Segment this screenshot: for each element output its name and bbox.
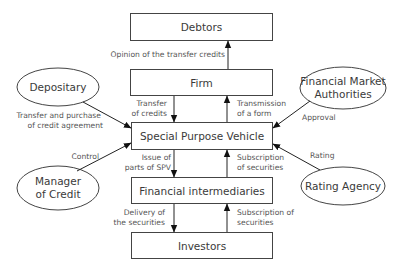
label-firm-to-spv-1: Transfer [135,99,167,108]
firm-node: Firm [131,70,273,96]
label-spv-to-firm-2: of a form [237,109,272,118]
intermediaries-node: Financial intermediaries [132,178,273,204]
label-manager-to-spv: Control [72,152,99,161]
firm-label: Firm [190,77,213,89]
rating-label: Rating Agency [305,180,381,192]
label-fma-to-spv: Approval [302,113,336,122]
label-rating-to-spv: Rating [310,151,335,160]
label-intermediaries-to-spv-2: of securities [237,163,283,172]
label-spv-to-intermediaries-1: Issue of [142,153,172,162]
securitization-diagram: Debtors Firm Special Purpose Vehicle Fin… [0,0,401,270]
spv-label: Special Purpose Vehicle [140,130,264,142]
label-depositary-to-spv-2: of credit agreement [28,121,104,130]
fma-label-line1: Financial Market [300,75,385,87]
spv-node: Special Purpose Vehicle [132,123,273,150]
manager-node: Manager of Credit [17,166,99,210]
investors-label: Investors [178,240,226,252]
label-investors-to-intermediaries-2: securities [237,218,274,227]
label-investors-to-intermediaries-1: Subscription of [237,208,294,217]
label-intermediaries-to-investors-1: Delivery of [124,208,166,217]
debtors-node: Debtors [131,14,273,41]
investors-node: Investors [132,233,273,259]
fma-label-line2: Authorities [314,88,371,100]
manager-label-line1: Manager [35,175,82,187]
label-firm-to-spv-2: of credits [132,109,167,118]
debtors-label: Debtors [181,21,223,33]
label-depositary-to-spv-1: Transfer and purchase [15,111,101,120]
label-firm-to-debtors: Opinion of the transfer credits [111,50,225,59]
label-spv-to-firm-1: Transmission [236,99,286,108]
rating-node: Rating Agency [301,167,385,205]
manager-label-line2: of Credit [35,188,80,200]
label-intermediaries-to-spv-1: Subscription [237,153,284,162]
label-intermediaries-to-investors-2: the securities [114,218,165,227]
depositary-node: Depositary [17,68,99,106]
label-spv-to-intermediaries-2: parts of SPV [125,163,172,172]
intermediaries-label: Financial intermediaries [139,185,264,197]
depositary-label: Depositary [29,81,86,93]
fma-node: Financial Market Authorities [300,67,386,109]
